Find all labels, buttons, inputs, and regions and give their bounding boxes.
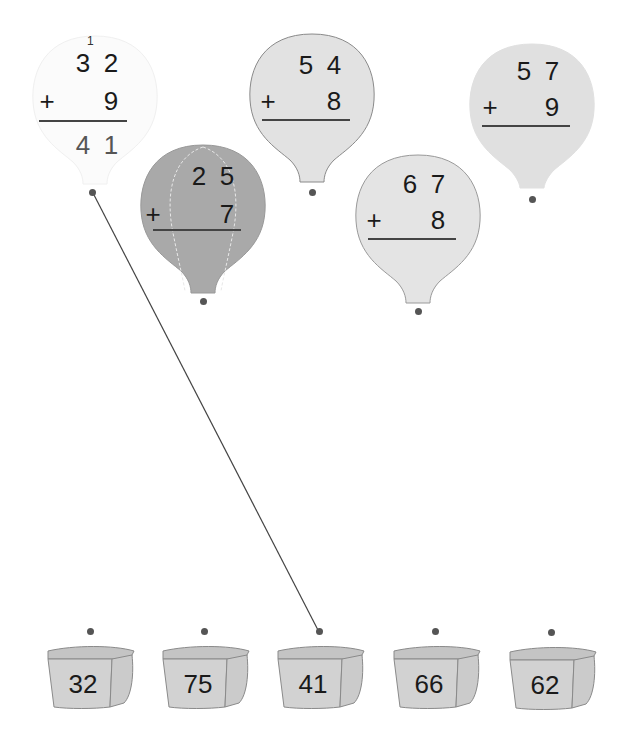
balloon-4-connector-dot[interactable]	[415, 308, 422, 315]
top-tens: 3	[73, 50, 93, 76]
basket-5-connector-dot[interactable]	[548, 629, 555, 636]
basket-value: 75	[167, 669, 229, 700]
basket-3-connector-dot[interactable]	[316, 628, 323, 635]
balloon-1-connector-dot[interactable]	[89, 189, 96, 196]
balloon-2-connector-dot[interactable]	[200, 298, 207, 305]
add-ones: 8	[428, 207, 448, 233]
top-ones: 7	[428, 171, 448, 197]
basket-4[interactable]: 66	[390, 643, 482, 715]
plus-operator: +	[258, 88, 278, 114]
top-ones: 5	[217, 163, 237, 189]
matching-worksheet: 1 3 2 + 9 4 1 2 5	[0, 0, 628, 741]
plus-operator: +	[364, 207, 384, 233]
sum-rule	[482, 125, 570, 127]
basket-3[interactable]: 41	[274, 643, 366, 715]
basket-1-connector-dot[interactable]	[87, 628, 94, 635]
balloon-problem-4[interactable]: 6 7 + 8	[354, 153, 482, 313]
answer-ones: 1	[101, 132, 121, 158]
top-ones: 4	[324, 52, 344, 78]
basket-2[interactable]: 75	[159, 643, 251, 715]
sum-rule	[153, 229, 241, 231]
basket-5[interactable]: 62	[506, 644, 598, 716]
top-tens: 5	[296, 52, 316, 78]
top-tens: 5	[514, 58, 534, 84]
add-ones: 8	[324, 88, 344, 114]
add-ones: 9	[542, 94, 562, 120]
add-ones: 9	[101, 88, 121, 114]
balloon-5-connector-dot[interactable]	[529, 196, 536, 203]
plus-operator: +	[143, 201, 163, 227]
plus-operator: +	[480, 94, 500, 120]
top-tens: 6	[400, 171, 420, 197]
sum-rule	[262, 119, 350, 121]
balloon-3-connector-dot[interactable]	[309, 189, 316, 196]
add-ones: 7	[217, 201, 237, 227]
basket-4-connector-dot[interactable]	[432, 628, 439, 635]
sum-rule	[39, 120, 127, 122]
sum-rule	[368, 238, 456, 240]
top-ones: 2	[101, 50, 121, 76]
top-ones: 7	[542, 58, 562, 84]
basket-value: 66	[398, 669, 460, 700]
basket-value: 41	[282, 669, 344, 700]
basket-2-connector-dot[interactable]	[201, 628, 208, 635]
top-tens: 2	[189, 163, 209, 189]
balloon-problem-5[interactable]: 5 7 + 9	[468, 42, 596, 202]
answer-tens: 4	[73, 132, 93, 158]
basket-value: 32	[52, 669, 114, 700]
basket-1[interactable]: 32	[44, 643, 136, 715]
carry-digit: 1	[87, 34, 94, 48]
basket-value: 62	[514, 670, 576, 701]
plus-operator: +	[37, 88, 57, 114]
